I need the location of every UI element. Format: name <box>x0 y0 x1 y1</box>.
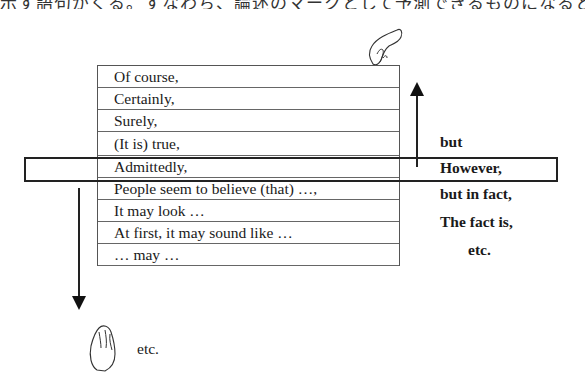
list-item: Surely, <box>98 110 399 132</box>
arrow-down-icon <box>72 296 86 311</box>
arrow-up-icon <box>410 82 424 97</box>
list-item: At first, it may sound like … <box>98 222 399 244</box>
contrast-item-however: However, <box>440 159 502 177</box>
arrow-down-shaft <box>78 188 80 298</box>
list-item: Of course, <box>98 66 399 88</box>
list-item: Certainly, <box>98 88 399 110</box>
contrast-item-but: but <box>440 133 462 151</box>
bottom-hand-icon <box>85 318 125 373</box>
concession-etc: etc. <box>137 340 159 358</box>
arrow-up-shaft <box>416 95 418 167</box>
contrast-item-but-in-fact: but in fact, <box>440 185 512 203</box>
clipped-header-text: 示す語句がくる。すなわち、論述のマークとして予測できるものになるとよ <box>0 0 585 9</box>
contrast-item-the-fact-is: The fact is, <box>440 213 513 231</box>
top-hand-icon <box>363 24 413 69</box>
list-item: … may … <box>98 244 399 266</box>
contrast-item-etc: etc. <box>468 241 491 259</box>
list-item: It may look … <box>98 200 399 222</box>
list-item-highlighted: (It is) true, <box>98 132 399 156</box>
